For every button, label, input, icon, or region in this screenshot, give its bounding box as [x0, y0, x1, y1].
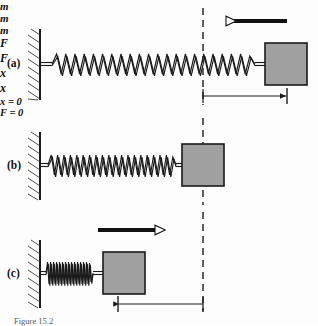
figure-caption: Figure 15.2 [14, 317, 53, 326]
panel-b [28, 132, 224, 200]
panel-label-a: (a) [7, 58, 20, 70]
block-b [182, 144, 224, 186]
wall-c [28, 240, 40, 308]
block-a [265, 43, 307, 85]
block-c [103, 252, 145, 294]
panel-label-c: (c) [7, 268, 20, 280]
panel-a [28, 21, 307, 104]
panel-label-b: (b) [7, 160, 21, 172]
dimension-x-c [118, 296, 203, 312]
panel-c [28, 230, 203, 312]
dimension-x-a [203, 88, 287, 104]
wall-a [28, 29, 40, 100]
spring-b [40, 155, 182, 177]
spring-a [40, 54, 265, 76]
wall-b [28, 132, 40, 200]
spring-c [40, 262, 103, 286]
